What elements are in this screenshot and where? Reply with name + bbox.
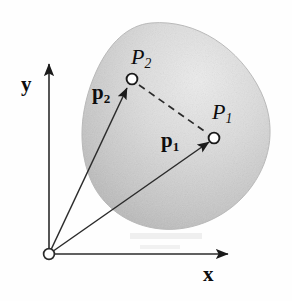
point-p1-label-subscript: 1 (225, 111, 232, 126)
point-p2-marker (127, 74, 138, 85)
y-axis-label: y (21, 74, 32, 95)
vector-p2-label-base: p (92, 80, 104, 104)
point-p1-marker (209, 133, 220, 144)
point-p2-label: P2 (131, 46, 151, 70)
rigid-body-shape (82, 23, 270, 230)
point-p1-label: P1 (212, 101, 232, 125)
point-p2-label-subscript: 2 (144, 56, 151, 71)
origin-point-marker (44, 249, 55, 260)
vector-p1-label-subscript: 1 (173, 139, 180, 154)
vector-p1-label: p1 (161, 130, 179, 153)
point-p2-label-base: P (131, 44, 144, 69)
scan-artifact (130, 233, 202, 249)
vector-p2-label: p2 (92, 82, 110, 105)
vector-diagram-figure: y x P2 P1 p2 p1 (0, 0, 292, 301)
x-axis-label: x (203, 264, 214, 285)
vector-p1-label-base: p (161, 128, 173, 152)
vector-p2-label-subscript: 2 (104, 91, 111, 106)
point-p1-label-base: P (212, 99, 225, 124)
